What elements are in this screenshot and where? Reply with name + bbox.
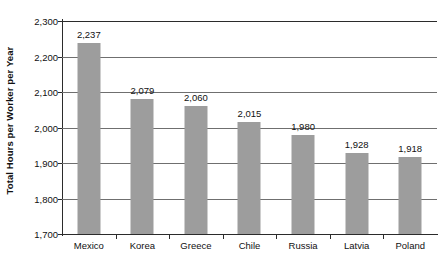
y-axis-tick-label: 2,000 — [34, 122, 58, 133]
x-axis-category-label: Greece — [180, 240, 211, 251]
bar-group: 1,980 — [276, 21, 330, 234]
bar — [77, 43, 100, 234]
bar-value-label: 1,980 — [291, 121, 315, 132]
bar-group: 2,237 — [62, 21, 116, 234]
bar-value-label: 1,918 — [398, 143, 422, 154]
bar — [238, 122, 261, 234]
y-axis-tick-label: 1,900 — [34, 158, 58, 169]
bar-chart: Total Hours per Worker per Year 2,3002,2… — [0, 0, 447, 267]
bar — [345, 153, 368, 234]
bar-value-label: 2,079 — [130, 85, 154, 96]
bar-value-label: 2,015 — [238, 108, 262, 119]
y-axis-tick-labels: 2,3002,2002,1002,0001,9001,8001,700 — [20, 0, 60, 267]
bar-group: 2,060 — [169, 21, 223, 234]
x-axis-tick-mark — [223, 234, 224, 239]
x-axis-category-label: Russia — [289, 240, 318, 251]
x-axis-category-label: Korea — [130, 240, 155, 251]
bars-layer: 2,2372,0792,0602,0151,9801,9281,918 — [62, 21, 437, 234]
bar-group: 1,928 — [330, 21, 384, 234]
y-axis-tick-label: 2,300 — [34, 16, 58, 27]
bar-group: 2,015 — [223, 21, 277, 234]
y-axis-title-text: Total Hours per Worker per Year — [5, 46, 16, 194]
x-axis-tick-mark — [169, 234, 170, 239]
bar-group: 2,079 — [116, 21, 170, 234]
bar — [399, 157, 422, 234]
bar-value-label: 1,928 — [345, 139, 369, 150]
x-axis-tick-mark — [116, 234, 117, 239]
x-axis-category-label: Latvia — [344, 240, 369, 251]
bar — [184, 106, 207, 234]
y-axis-tick-label: 1,700 — [34, 229, 58, 240]
y-axis-tick-label: 2,100 — [34, 87, 58, 98]
x-axis-category-label: Poland — [395, 240, 425, 251]
x-axis-category-label: Chile — [239, 240, 261, 251]
x-axis-tick-mark — [383, 234, 384, 239]
y-axis-tick-label: 2,200 — [34, 51, 58, 62]
bar-value-label: 2,237 — [77, 29, 101, 40]
bar — [292, 135, 315, 234]
x-axis-category-label: Mexico — [74, 240, 104, 251]
bar-group: 1,918 — [383, 21, 437, 234]
y-axis-tick-label: 1,800 — [34, 193, 58, 204]
x-axis-tick-mark — [276, 234, 277, 239]
plot-area: 2,2372,0792,0602,0151,9801,9281,918 — [62, 21, 437, 234]
bar-value-label: 2,060 — [184, 92, 208, 103]
y-axis-title: Total Hours per Worker per Year — [0, 0, 20, 240]
bar — [131, 99, 154, 234]
x-axis-tick-mark — [330, 234, 331, 239]
x-axis-category-labels: MexicoKoreaGreeceChileRussiaLatviaPoland — [62, 240, 438, 260]
